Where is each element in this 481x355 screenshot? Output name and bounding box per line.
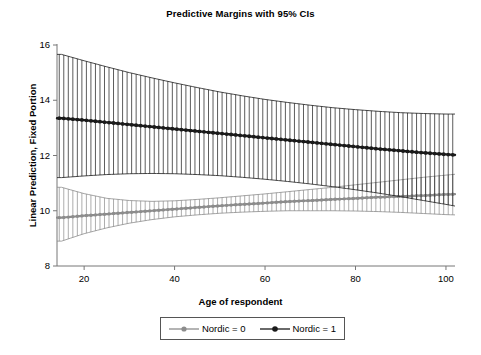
- legend-item-nordic-1[interactable]: Nordic = 1: [260, 323, 337, 334]
- x-tick-100: 100: [426, 273, 466, 284]
- legend-label: Nordic = 0: [202, 323, 246, 334]
- y-tick-8: 8: [24, 260, 50, 271]
- legend-item-nordic-0[interactable]: Nordic = 0: [169, 323, 246, 334]
- x-tick-80: 80: [336, 273, 376, 284]
- x-tick-40: 40: [155, 273, 195, 284]
- predictive-margins-chart: Predictive Margins with 95% CIs Linear P…: [0, 0, 481, 355]
- chart-title: Predictive Margins with 95% CIs: [0, 8, 481, 19]
- x-tick-60: 60: [245, 273, 285, 284]
- chart-legend: Nordic = 0 Nordic = 1: [160, 317, 345, 340]
- series-nordic-1: [57, 54, 455, 206]
- y-tick-12: 12: [24, 150, 50, 161]
- y-tick-16: 16: [24, 39, 50, 50]
- y-tick-10: 10: [24, 205, 50, 216]
- legend-marker-icon: [169, 324, 199, 334]
- legend-marker-icon: [260, 324, 290, 334]
- series-nordic-0: [57, 174, 455, 241]
- legend-label: Nordic = 1: [293, 323, 337, 334]
- y-tick-14: 14: [24, 94, 50, 105]
- x-tick-20: 20: [64, 273, 104, 284]
- x-axis-label: Age of respondent: [0, 296, 481, 307]
- data-series-group: [57, 54, 455, 241]
